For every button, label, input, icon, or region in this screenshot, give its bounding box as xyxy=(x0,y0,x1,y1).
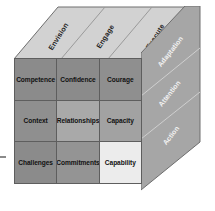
cell-competence: Competence xyxy=(15,59,56,100)
right-face-panel-group xyxy=(141,6,200,190)
cell-context: Context xyxy=(15,101,56,142)
left-edge-tick xyxy=(0,156,6,158)
cell-relationships: Relationships xyxy=(57,101,98,142)
cell-challenges: Challenges xyxy=(15,142,56,183)
cell-capacity: Capacity xyxy=(100,101,141,142)
cube-front-face: Competence Confidence Courage Context Re… xyxy=(14,58,142,184)
cube-diagram: Envision Engage Execute Adaptation Atten… xyxy=(0,0,215,211)
cell-capability: Capability xyxy=(100,142,141,183)
cube-right-face: Adaptation Attention Action xyxy=(141,6,215,191)
cell-courage: Courage xyxy=(100,59,141,100)
cell-confidence: Confidence xyxy=(57,59,98,100)
cell-commitments: Commitments xyxy=(57,142,98,183)
